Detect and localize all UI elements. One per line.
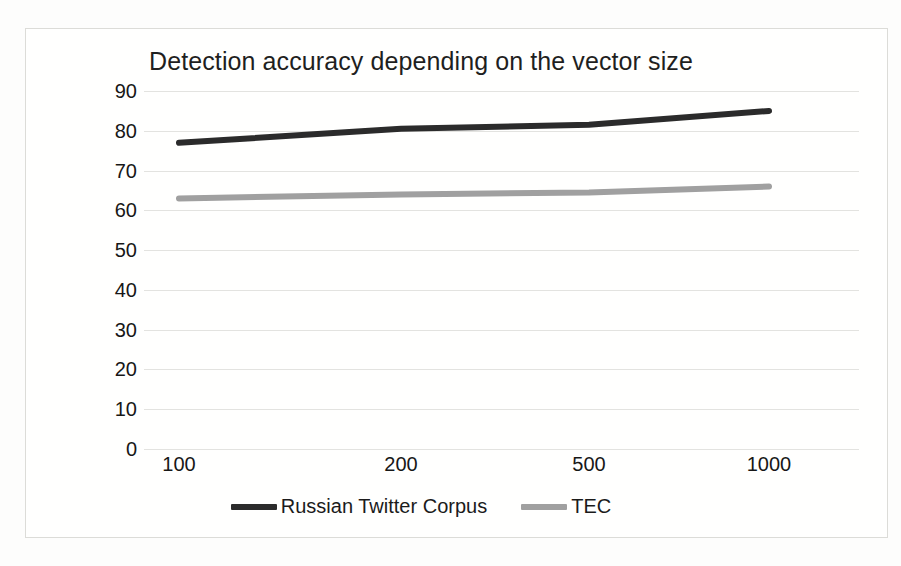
chart-container: Detection accuracy depending on the vect…: [25, 28, 888, 538]
legend-swatch-icon: [521, 504, 567, 510]
y-axis-tick-label: 30: [51, 318, 137, 341]
chart-title: Detection accuracy depending on the vect…: [26, 47, 816, 76]
plot-area: [144, 91, 859, 449]
legend-item[interactable]: TEC: [521, 495, 611, 518]
y-axis-tick-label: 0: [51, 438, 137, 461]
chart-legend: Russian Twitter CorpusTEC: [26, 495, 816, 518]
legend-swatch-icon: [231, 504, 277, 510]
x-axis-tick-label: 1000: [747, 453, 792, 476]
x-axis-tick-label: 200: [384, 453, 417, 476]
y-axis-tick-label: 70: [51, 159, 137, 182]
y-axis-tick-labels: 9080706050403020100: [51, 91, 137, 449]
legend-item[interactable]: Russian Twitter Corpus: [231, 495, 487, 518]
gridline: [144, 449, 859, 450]
series-line: [179, 186, 769, 198]
series-line: [179, 111, 769, 143]
x-axis-tick-labels: 1002005001000: [144, 453, 859, 483]
y-axis-tick-label: 20: [51, 358, 137, 381]
legend-label: Russian Twitter Corpus: [281, 495, 487, 518]
x-axis-tick-label: 500: [572, 453, 605, 476]
x-axis-tick-label: 100: [162, 453, 195, 476]
y-axis-tick-label: 90: [51, 80, 137, 103]
legend-label: TEC: [571, 495, 611, 518]
series-lines: [144, 91, 859, 449]
y-axis-tick-label: 60: [51, 199, 137, 222]
y-axis-tick-label: 50: [51, 239, 137, 262]
y-axis-tick-label: 80: [51, 119, 137, 142]
y-axis-tick-label: 40: [51, 278, 137, 301]
y-axis-tick-label: 10: [51, 398, 137, 421]
